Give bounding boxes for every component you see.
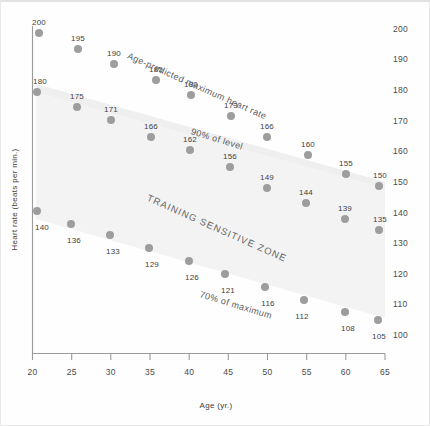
x-axis-title: Age (yr.) (1, 401, 430, 410)
data-point-label: 136 (67, 236, 81, 245)
chart-figure: 200 190 180 170 160 150 140 130 120 110 … (0, 0, 430, 426)
data-point (33, 88, 41, 96)
data-point (152, 76, 160, 84)
data-point (221, 270, 229, 278)
y-tick-label-150: 150 (393, 177, 408, 187)
x-tick-label-25: 25 (67, 367, 77, 377)
training-sensitive-zone-band (36, 84, 385, 318)
x-tick-label-50: 50 (262, 367, 272, 377)
x-tick-label-65: 65 (380, 367, 390, 377)
data-point (73, 103, 81, 111)
data-point-label: 116 (261, 299, 274, 308)
data-point (67, 220, 75, 228)
data-point-label: 112 (295, 312, 308, 321)
y-tick-label-160: 160 (393, 146, 408, 156)
data-point-label: 129 (145, 260, 159, 269)
data-point (186, 146, 194, 154)
data-point (185, 257, 193, 265)
y-axis-title: Heart rate (beats per min.) (10, 135, 19, 265)
data-point-label: 105 (372, 332, 386, 341)
data-point-label: 121 (221, 286, 235, 295)
y-tick-label-190: 190 (393, 54, 408, 64)
plot-svg (1, 2, 430, 426)
x-tick-label-30: 30 (106, 367, 116, 377)
data-point (33, 207, 41, 215)
data-point-label: 166 (144, 122, 158, 131)
data-point-label: 171 (104, 105, 118, 114)
data-point-label: 180 (33, 77, 47, 86)
y-tick-label-120: 120 (393, 269, 408, 279)
data-point (227, 112, 235, 120)
data-point-label: 200 (32, 18, 46, 27)
data-point-label: 195 (71, 34, 85, 43)
data-point-label: 175 (70, 92, 84, 101)
data-point (300, 296, 308, 304)
data-point (74, 45, 82, 53)
data-point (341, 215, 349, 223)
data-point-label: 108 (341, 324, 355, 333)
x-tick-label-40: 40 (184, 367, 194, 377)
data-point-label: 150 (373, 171, 387, 180)
data-point-label: 155 (339, 159, 353, 168)
x-tick-label-45: 45 (223, 367, 233, 377)
data-point (342, 170, 350, 178)
data-point-label: 135 (373, 215, 387, 224)
data-point-label: 139 (338, 204, 352, 213)
x-tick-label-55: 55 (302, 367, 312, 377)
x-tick-marks (33, 354, 386, 361)
y-tick-label-140: 140 (393, 208, 408, 218)
y-tick-label-130: 130 (393, 238, 408, 248)
data-point (35, 29, 43, 37)
data-point (304, 151, 312, 159)
data-point (147, 133, 155, 141)
data-point (374, 316, 382, 324)
x-tick-label-60: 60 (341, 367, 351, 377)
y-tick-label-110: 110 (393, 299, 407, 309)
data-point-label: 144 (299, 188, 313, 197)
y-tick-label-170: 170 (393, 116, 408, 126)
data-point (375, 226, 383, 234)
data-point (263, 133, 271, 141)
data-point (226, 163, 234, 171)
data-point (302, 199, 310, 207)
y-tick-label-200: 200 (393, 24, 408, 34)
data-point-label: 156 (223, 152, 237, 161)
y-tick-label-100: 100 (393, 330, 408, 340)
data-point (107, 116, 115, 124)
data-point-label: 133 (106, 247, 120, 256)
data-point-label: 140 (35, 223, 49, 232)
data-point (261, 283, 269, 291)
data-point-label: 126 (185, 273, 199, 282)
data-point (110, 60, 118, 68)
x-tick-label-20: 20 (27, 367, 37, 377)
scatter-plot-area: 200 190 180 170 160 150 140 130 120 110 … (1, 2, 430, 426)
data-point (263, 184, 271, 192)
data-point (187, 91, 195, 99)
data-point-label: 149 (260, 173, 274, 182)
data-point-label: 160 (301, 140, 315, 149)
data-point-label: 166 (260, 122, 274, 131)
data-point (341, 308, 349, 316)
data-point-label: 190 (107, 49, 121, 58)
data-point (106, 231, 114, 239)
x-tick-label-35: 35 (145, 367, 155, 377)
y-tick-label-180: 180 (393, 85, 408, 95)
data-point (145, 244, 153, 252)
data-point (375, 182, 383, 190)
